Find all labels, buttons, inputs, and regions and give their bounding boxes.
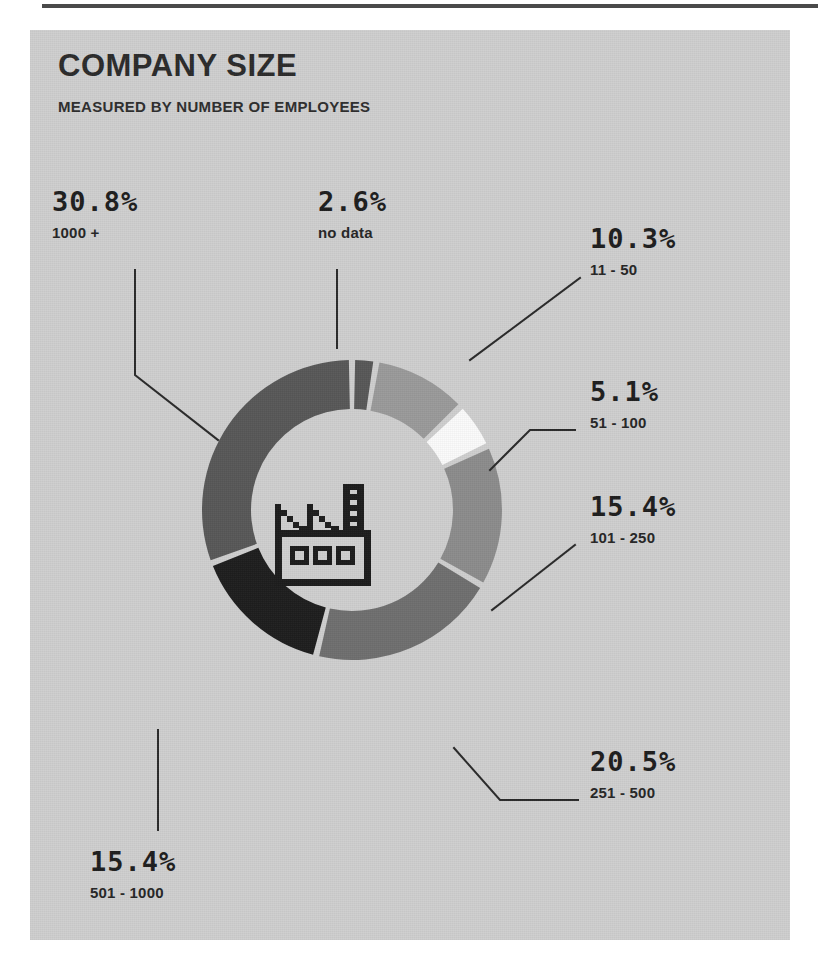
label-251-500-range: 251 - 500: [590, 784, 676, 801]
leader-1000-plus: [135, 270, 218, 440]
leader-lines: [135, 270, 580, 830]
label-251-500: 20.5% 251 - 500: [590, 748, 676, 801]
leader-51-100: [490, 430, 575, 470]
label-no-data-range: no data: [318, 224, 387, 241]
segment-101-250[interactable]: [440, 449, 502, 583]
label-1000-plus-pct: 30.8%: [52, 188, 138, 215]
label-501-1000: 15.4% 501 - 1000: [90, 848, 176, 901]
label-no-data-pct: 2.6%: [318, 188, 387, 215]
label-501-1000-range: 501 - 1000: [90, 884, 176, 901]
label-no-data: 2.6% no data: [318, 188, 387, 241]
label-51-100-pct: 5.1%: [590, 378, 659, 405]
label-51-100: 5.1% 51 - 100: [590, 378, 659, 431]
leader-251-500: [454, 748, 578, 800]
label-101-250-range: 101 - 250: [590, 529, 676, 546]
label-101-250-pct: 15.4%: [590, 493, 676, 520]
label-101-250: 15.4% 101 - 250: [590, 493, 676, 546]
label-51-100-range: 51 - 100: [590, 414, 659, 431]
label-11-50-range: 11 - 50: [590, 261, 676, 278]
label-11-50-pct: 10.3%: [590, 225, 676, 252]
segment-no-data[interactable]: [354, 360, 373, 410]
label-1000-plus: 30.8% 1000 +: [52, 188, 138, 241]
segment-251-500[interactable]: [319, 563, 480, 660]
label-501-1000-pct: 15.4%: [90, 848, 176, 875]
factory-windows: [290, 546, 355, 565]
top-divider-rule: [42, 4, 818, 8]
label-11-50: 10.3% 11 - 50: [590, 225, 676, 278]
label-251-500-pct: 20.5%: [590, 748, 676, 775]
factory-icon: [275, 484, 371, 586]
leader-11-50: [470, 278, 580, 360]
donut-chart: [30, 30, 790, 940]
infographic-panel: COMPANY SIZE MEASURED BY NUMBER OF EMPLO…: [30, 30, 790, 940]
leader-101-250: [492, 545, 575, 610]
label-1000-plus-range: 1000 +: [52, 224, 138, 241]
